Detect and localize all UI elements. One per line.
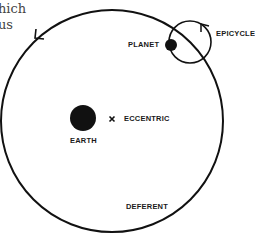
planet-label: PLANET — [128, 40, 159, 49]
eccentric-x-icon — [110, 117, 115, 122]
deferent-label: DEFERENT — [126, 202, 168, 211]
earth-dot — [70, 105, 96, 131]
deferent-circle — [1, 10, 223, 232]
planet-dot — [165, 39, 177, 51]
epicycle-label: EPICYCLE — [216, 29, 255, 38]
eccentric-label: ECCENTRIC — [124, 114, 170, 123]
earth-label: EARTH — [70, 136, 97, 145]
